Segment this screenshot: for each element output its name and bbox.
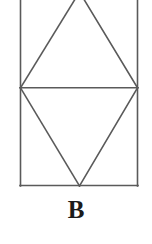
- lower-triangle-right-side: [80, 88, 138, 186]
- figure-strokes: [20, 0, 138, 186]
- lower-triangle-left-side: [21, 88, 80, 186]
- geometry-diagram: [0, 0, 152, 196]
- geometric-figure-panel: B: [0, 0, 152, 244]
- upper-triangle-right-side: [80, 0, 138, 88]
- upper-triangle-left-side: [21, 0, 80, 88]
- figure-caption-label: B: [0, 197, 152, 223]
